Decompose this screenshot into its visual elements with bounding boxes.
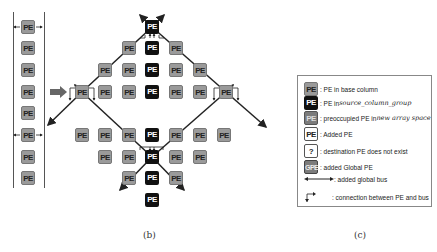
legend-text: : PE in base column xyxy=(320,86,378,93)
pe-cell: PE xyxy=(122,128,136,142)
pe-cell: PE xyxy=(145,41,159,55)
legend-swatch-src: PE xyxy=(304,96,318,110)
pe-cell: PE xyxy=(169,85,183,99)
connection-icon xyxy=(304,191,318,203)
pe-cell: PE xyxy=(122,171,136,185)
legend: PE: PE in base columnPE: PE in source_co… xyxy=(297,75,432,207)
legend-text: : destination PE does not exist xyxy=(320,148,407,155)
pe-cell: PE xyxy=(217,128,231,142)
pe-cell: PE xyxy=(145,85,159,99)
legend-text: : connection between PE and bus xyxy=(332,194,429,201)
global-node-top: PE xyxy=(145,20,159,34)
pe-cell: PE xyxy=(193,150,207,164)
legend-swatch-occ: PE xyxy=(304,111,318,125)
pe-cell: PE xyxy=(145,63,159,77)
legend-item: : connection between PE and bus xyxy=(304,191,429,203)
pe-cell: PE xyxy=(193,85,207,99)
legend-swatch-gpe: GPE xyxy=(304,160,318,174)
pe-cell: PE xyxy=(98,85,112,99)
global-node-bottom: PE xyxy=(145,150,159,164)
legend-swatch-q: ? xyxy=(304,144,318,158)
caption-b: (b) xyxy=(143,230,156,240)
pe-cell: PE xyxy=(169,128,183,142)
legend-swatch-base: PE xyxy=(304,82,318,96)
pe-cell: PE xyxy=(193,128,207,142)
legend-item: PE: preoccupied PE in new array space xyxy=(304,111,431,125)
pe-cell: PE xyxy=(145,171,159,185)
legend-italic-text: new array space xyxy=(376,114,430,122)
pe-cell: PE xyxy=(169,41,183,55)
pe-cell: PE xyxy=(122,150,136,164)
caption-c: (c) xyxy=(354,230,366,240)
legend-item: PE: PE in base column xyxy=(304,82,378,96)
pe-cell: PE xyxy=(169,150,183,164)
pe-cell: PE xyxy=(169,171,183,185)
legend-text: : PE in xyxy=(320,100,339,107)
legend-item: : added global bus xyxy=(304,175,387,183)
pe-cell: PE xyxy=(98,150,112,164)
pe-cell: PE xyxy=(75,128,89,142)
legend-item: PE: PE in source_column_group xyxy=(304,96,411,110)
legend-text: : Added PE xyxy=(320,131,353,138)
double-arrow-icon xyxy=(304,175,334,183)
pe-cell: PE xyxy=(98,63,112,77)
pe-cell: PE xyxy=(122,41,136,55)
pe-cell: PE xyxy=(145,193,159,207)
legend-item: ?: destination PE does not exist xyxy=(304,144,407,158)
pe-cell: PE xyxy=(98,128,112,142)
legend-text: : added global bus xyxy=(334,176,387,183)
global-node-left: PE xyxy=(75,85,89,99)
legend-swatch-added: PE xyxy=(304,127,318,141)
pe-cell: PE xyxy=(193,63,207,77)
legend-text: : added Global PE xyxy=(320,164,373,171)
legend-italic-text: source_column_group xyxy=(339,99,411,107)
legend-item: GPE: added Global PE xyxy=(304,160,373,174)
pe-cell: PE xyxy=(145,128,159,142)
pe-cell: PE xyxy=(169,63,183,77)
pe-cell: PE xyxy=(122,63,136,77)
global-node-right: PE xyxy=(219,85,233,99)
legend-text: : preoccupied PE in xyxy=(320,115,376,122)
pe-cell: PE xyxy=(122,85,136,99)
legend-item: PE: Added PE xyxy=(304,127,353,141)
